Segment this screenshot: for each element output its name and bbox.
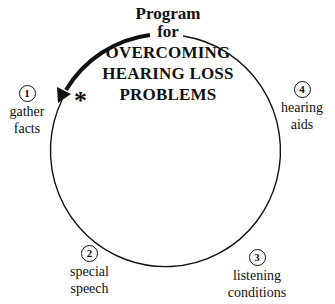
step-label-line: gather xyxy=(2,103,52,120)
step-gather-facts: 1 gather facts xyxy=(2,84,52,137)
step-label-line: conditions xyxy=(212,284,302,301)
step-label-line: special xyxy=(62,263,117,280)
step-label-line: aids xyxy=(272,116,332,133)
step-number-badge: 4 xyxy=(294,81,311,98)
step-number-badge: 1 xyxy=(19,85,36,102)
step-label-line: speech xyxy=(62,280,117,297)
title-line-3: OVERCOMING xyxy=(88,42,248,63)
diagram-title: Program for OVERCOMING HEARING LOSS PROB… xyxy=(88,3,248,105)
step-number-badge: 2 xyxy=(81,245,98,262)
step-hearing-aids: 4 hearing aids xyxy=(272,80,332,133)
step-special-speech: 2 special speech xyxy=(62,244,117,297)
title-line-5: PROBLEMS xyxy=(88,84,248,105)
step-listening-conditions: 3 listening conditions xyxy=(212,248,302,301)
step-label-line: hearing xyxy=(272,99,332,116)
step-number-badge: 3 xyxy=(249,249,266,266)
title-line-2: for xyxy=(88,21,248,42)
step-label-line: listening xyxy=(212,267,302,284)
arrowhead-icon xyxy=(57,87,71,103)
asterisk-marker: * xyxy=(74,88,87,114)
title-line-4: HEARING LOSS xyxy=(88,63,248,84)
step-label-line: facts xyxy=(2,120,52,137)
